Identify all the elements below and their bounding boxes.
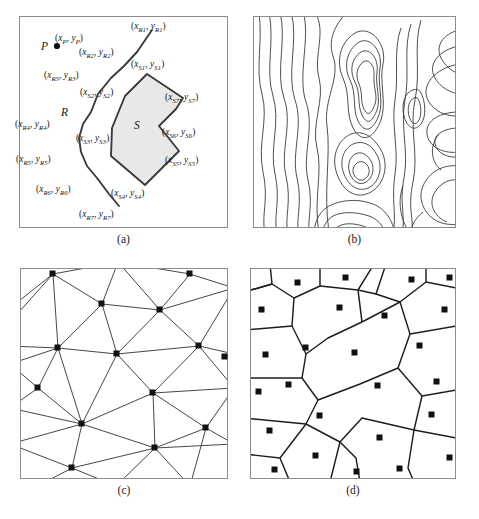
caption-d: (d) [250, 484, 456, 496]
coord-label-R2: (xR2, yR2) [79, 47, 114, 59]
coord-label-S5: (xS5, yS5) [165, 155, 198, 167]
panel-c-triangulation [20, 268, 228, 479]
coord-label-P: (xP, yP) [55, 33, 83, 45]
label-P: P [41, 40, 48, 52]
coord-label-R3: (xR3, yR3) [44, 70, 79, 82]
coord-label-S4: (xS4, yS4) [111, 188, 144, 200]
coord-label-S1: (xS1, yS1) [131, 59, 164, 71]
caption-c: (c) [20, 484, 228, 496]
coord-label-R5: (xR5, yR5) [16, 154, 51, 166]
coord-label-S3: (xS3, yS3) [76, 133, 109, 145]
coord-label-S2: (xS2, yS2) [80, 87, 113, 99]
coord-label-R1: (xR1, yR1) [131, 21, 166, 33]
panel-c-graphics [20, 268, 228, 479]
caption-b: (b) [253, 233, 456, 245]
label-R: R [61, 106, 68, 118]
panel-d-graphics [250, 268, 456, 479]
coord-label-R6: (xR6, yR6) [36, 184, 71, 196]
caption-a: (a) [19, 233, 228, 245]
panel-a-geometry: P R S (xP, yP)(xR1, yR1)(xR2, yR2)(xR3, … [19, 16, 228, 228]
coord-label-R7: (xR7, yR7) [79, 209, 114, 221]
voronoi-sites [256, 275, 453, 475]
coord-label-S7: (xS7, yS7) [165, 92, 198, 104]
coord-label-R4: (xR4, yR4) [15, 119, 50, 131]
panel-b-graphics [253, 16, 456, 228]
figure-container: P R S (xP, yP)(xR1, yR1)(xR2, yR2)(xR3, … [0, 0, 479, 519]
panel-b-contours [253, 16, 456, 228]
label-S: S [134, 119, 140, 131]
coord-label-S6: (xS6, yS6) [162, 127, 195, 139]
panel-d-voronoi [250, 268, 456, 479]
